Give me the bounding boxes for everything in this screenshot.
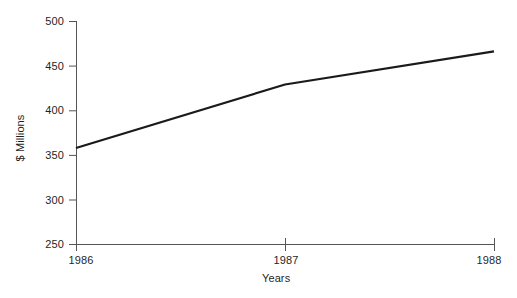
data-series-line xyxy=(76,51,494,148)
y-axis-ticks xyxy=(69,22,76,245)
y-tick-label-350: 350 xyxy=(24,150,64,161)
y-tick-label-500: 500 xyxy=(24,16,64,27)
x-tick-label-1987: 1987 xyxy=(263,255,309,266)
y-axis-title: $ Millions xyxy=(13,98,27,178)
y-tick-label-250: 250 xyxy=(24,239,64,250)
x-axis-title: Years xyxy=(262,273,290,284)
line-chart: 500 450 400 350 300 250 1986 1987 1988 $… xyxy=(0,0,517,298)
y-axis-title-text: $ Millions xyxy=(15,115,26,162)
x-tick-label-1988: 1988 xyxy=(466,255,512,266)
y-tick-label-450: 450 xyxy=(24,61,64,72)
x-tick-label-1986: 1986 xyxy=(58,255,104,266)
y-tick-label-300: 300 xyxy=(24,195,64,206)
y-tick-label-400: 400 xyxy=(24,105,64,116)
